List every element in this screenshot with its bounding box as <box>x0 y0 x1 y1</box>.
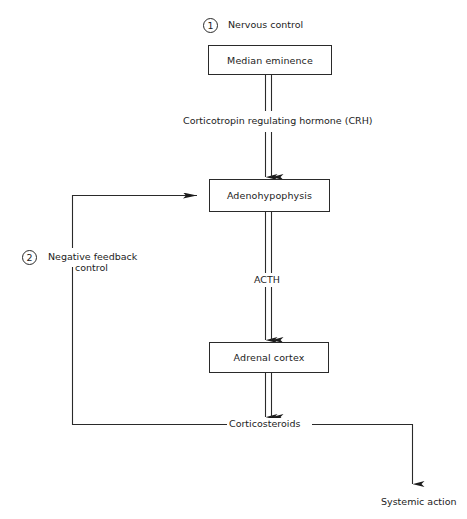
nervous-control-label: Nervous control <box>228 19 303 31</box>
annotation-number-2: 2 <box>22 250 37 265</box>
systemic-action-label: Systemic action <box>381 496 457 508</box>
corticosteroids-label: Corticosteroids <box>229 418 300 430</box>
hpa-axis-diagram: 1 Nervous control Median eminence Cortic… <box>0 0 467 519</box>
annotation-number-1: 1 <box>203 18 218 33</box>
adenohypophysis-box: Adenohypophysis <box>209 179 330 212</box>
adrenal-cortex-box: Adrenal cortex <box>209 342 329 373</box>
acth-label: ACTH <box>254 274 280 286</box>
adenohypophysis-label: Adenohypophysis <box>227 190 312 201</box>
median-eminence-box: Median eminence <box>208 45 332 75</box>
negative-feedback-label-line2: control <box>75 262 108 274</box>
crh-label: Corticotropin regulating hormone (CRH) <box>183 115 373 127</box>
median-eminence-label: Median eminence <box>227 55 313 66</box>
adrenal-cortex-label: Adrenal cortex <box>234 352 305 363</box>
